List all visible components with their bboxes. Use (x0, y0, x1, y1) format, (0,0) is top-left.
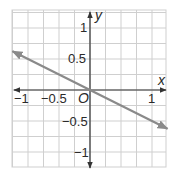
coordinate-plane: x y O −1 −0.5 1 1 0.5 −0.5 −1 (0, 0, 177, 177)
x-tick-neg0-5: −0.5 (41, 91, 67, 106)
y-tick-1: 1 (80, 20, 87, 35)
x-tick-neg1: −1 (14, 91, 29, 106)
y-tick-neg1: −1 (74, 145, 89, 160)
x-axis-label: x (157, 72, 166, 88)
y-tick-0-5: 0.5 (68, 51, 86, 66)
x-tick-1: 1 (148, 91, 155, 106)
y-axis-label: y (94, 7, 103, 23)
origin-label: O (78, 90, 89, 106)
y-tick-neg0-5: −0.5 (62, 114, 88, 129)
